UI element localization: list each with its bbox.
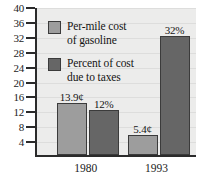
y-axis-tick-label: 28 — [13, 47, 24, 58]
y-axis-tick-mark — [26, 126, 35, 128]
bar-value-label: 12% — [94, 99, 114, 110]
legend-item: Per-mile cost of gasoline — [48, 19, 134, 47]
y-axis-tick-label: 4 — [19, 137, 24, 148]
y-axis-tick-label: 40 — [13, 3, 24, 14]
y-axis-tick-mark — [26, 141, 35, 143]
x-axis-tick-label: 1980 — [74, 163, 97, 175]
y-axis-tick-label: 24 — [13, 62, 24, 73]
y-axis-tick-mark — [26, 111, 35, 113]
legend-swatch-icon — [48, 21, 61, 34]
y-axis-tick-label: 16 — [13, 92, 24, 103]
y-axis-tick-mark — [26, 37, 35, 39]
bar-value-label: 13.9¢ — [60, 92, 84, 103]
legend-item-label: Per-mile cost of gasoline — [67, 19, 126, 47]
chart-legend: Per-mile cost of gasolinePercent of cost… — [48, 19, 134, 93]
y-axis-tick-label: 20 — [13, 77, 24, 88]
y-axis-tick-label: 32 — [13, 32, 24, 43]
bar-1993-series1 — [128, 135, 158, 155]
y-axis-tick-label: 36 — [13, 17, 24, 28]
y-axis-tick-mark — [26, 52, 35, 54]
x-axis-tick-label: 1993 — [145, 163, 168, 175]
legend-swatch-icon — [48, 58, 61, 71]
bar-1980-series1 — [57, 103, 87, 155]
y-axis-tick-mark — [26, 22, 35, 24]
y-axis-tick-label: 12 — [13, 107, 24, 118]
y-axis: 403632282420161284 — [0, 0, 35, 183]
legend-item: Percent of cost due to taxes — [48, 56, 134, 84]
bar-value-label: 5.4¢ — [133, 124, 151, 135]
legend-item-label: Percent of cost due to taxes — [67, 56, 134, 84]
y-axis-tick-label: 8 — [19, 122, 24, 133]
y-axis-tick-mark — [26, 82, 35, 84]
y-axis-tick-mark — [26, 96, 35, 98]
y-axis-tick-mark — [26, 67, 35, 69]
bar-1993-series2 — [160, 36, 190, 155]
bar-value-label: 32% — [165, 25, 185, 36]
bar-1980-series2 — [89, 110, 119, 155]
gridline — [37, 8, 196, 9]
y-axis-tick-mark — [26, 7, 35, 9]
bar-chart: 403632282420161284 13.9¢12%5.4¢32% 19801… — [0, 0, 214, 183]
